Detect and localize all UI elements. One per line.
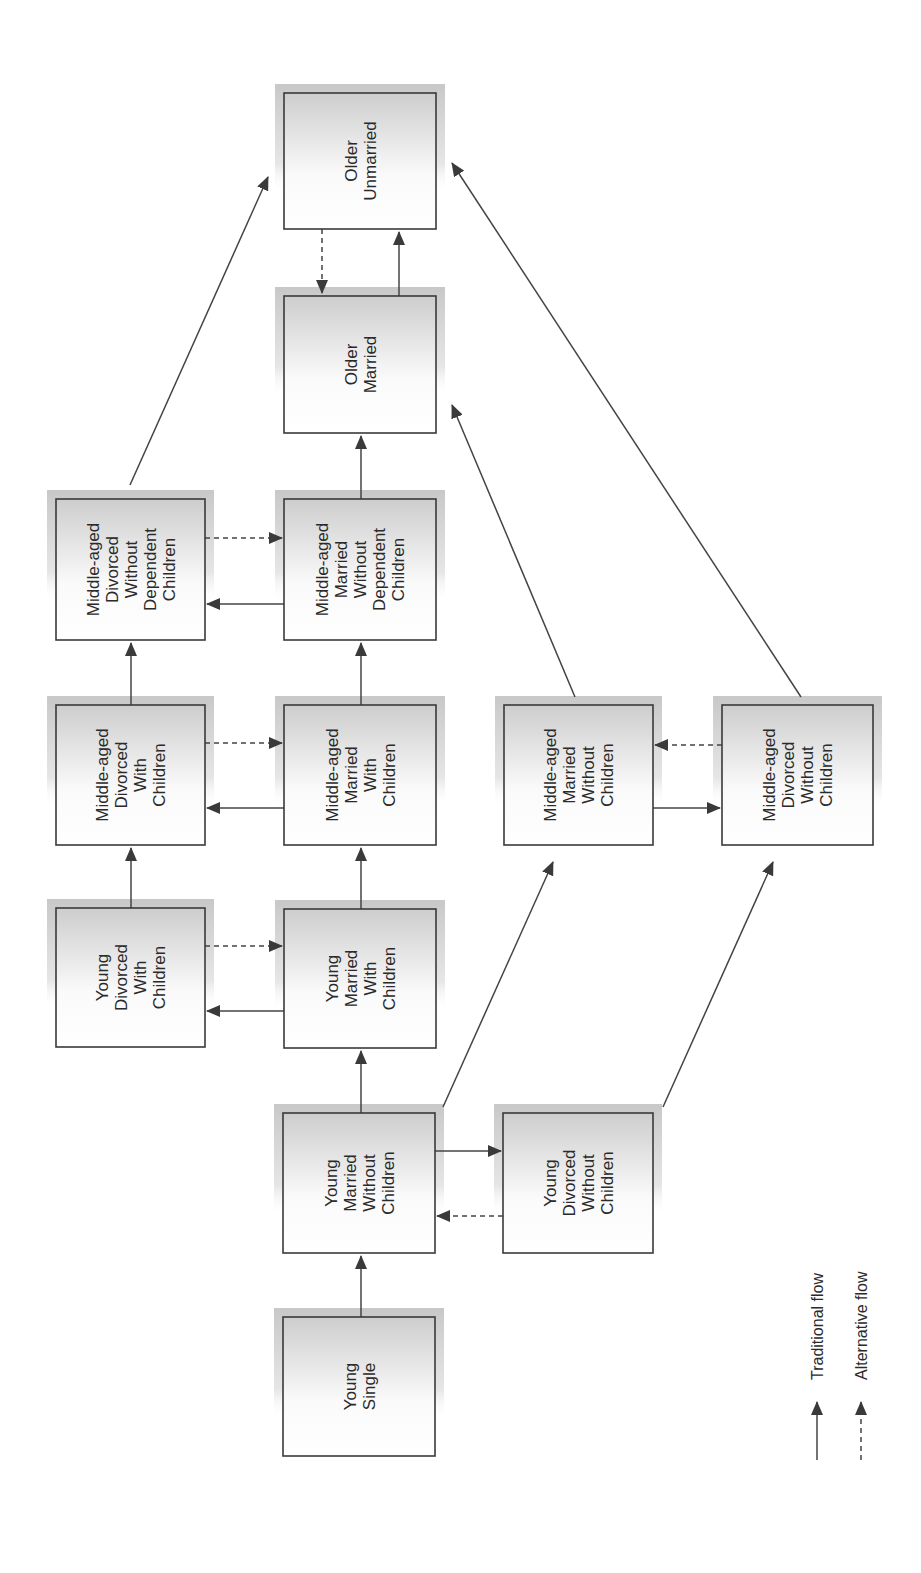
stage-node-young-divorced-without-children: YoungDivorcedWithoutChildren [503, 1113, 653, 1253]
traditional-flow-arrow [443, 862, 553, 1107]
stage-node-middle-aged-divorced-without-dependent-children: Middle-agedDivorcedWithoutDependentChild… [56, 499, 205, 640]
stage-node-middle-aged-married-with-children: Middle-agedMarriedWithChildren [284, 705, 436, 845]
stage-node-middle-aged-married-without-children: Middle-agedMarriedWithoutChildren [504, 705, 653, 845]
legend: Traditional flowAlternative flow [809, 1271, 870, 1460]
stage-label: YoungSingle [341, 1363, 379, 1411]
traditional-flow-arrow [452, 163, 801, 697]
stage-node-middle-aged-divorced-with-children: Middle-agedDivorcedWithChildren [56, 705, 205, 845]
stage-node-young-divorced-with-children: YoungDivorcedWithChildren [56, 908, 205, 1047]
stage-node-young-married-with-children: YoungMarriedWithChildren [284, 909, 436, 1048]
stage-node-middle-aged-married-without-dependent-children: Middle-agedMarriedWithoutDependentChildr… [284, 499, 436, 640]
stage-node-middle-aged-divorced-without-children: Middle-agedDivorcedWithoutChildren [722, 705, 873, 845]
stage-label: YoungMarriedWithoutChildren [322, 1151, 398, 1214]
stage-node-older-married: OlderMarried [284, 296, 436, 433]
stage-node-young-single: YoungSingle [283, 1317, 435, 1456]
alternative-flow-legend-label: Alternative flow [853, 1271, 870, 1380]
traditional-flow-arrow [663, 862, 773, 1107]
stage-label: YoungDivorcedWithoutChildren [541, 1149, 617, 1216]
traditional-flow-arrow [452, 405, 575, 697]
stage-node-older-unmarried: OlderUnmarried [284, 93, 436, 229]
family-life-cycle-diagram: YoungSingleYoungMarriedWithoutChildrenYo… [0, 0, 921, 1573]
traditional-flow-legend-label: Traditional flow [809, 1273, 826, 1380]
stage-label: OlderMarried [342, 336, 380, 394]
stage-node-young-married-without-children: YoungMarriedWithoutChildren [283, 1113, 435, 1253]
traditional-flow-arrow [130, 177, 268, 485]
